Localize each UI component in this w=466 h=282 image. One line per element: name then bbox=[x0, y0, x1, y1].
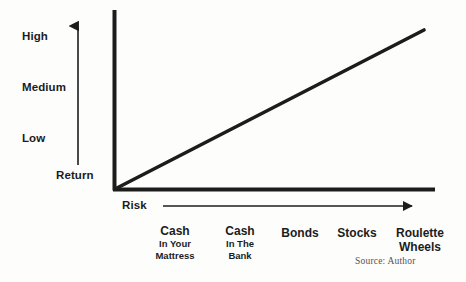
y-scale-label-high: High bbox=[22, 30, 48, 42]
y-axis-label: Return bbox=[56, 169, 94, 181]
category-main-text-2: Wheels bbox=[396, 240, 444, 254]
category-main-text: Cash bbox=[225, 224, 254, 238]
category-label-cash-bank: Cash In The Bank bbox=[225, 224, 254, 262]
category-label-bonds: Bonds bbox=[281, 226, 318, 240]
category-label-roulette-wheels: Roulette Wheels bbox=[396, 226, 444, 254]
category-sub-text-2: Bank bbox=[225, 250, 254, 262]
category-main-text: Stocks bbox=[337, 226, 376, 240]
category-main-text: Bonds bbox=[281, 226, 318, 240]
category-label-stocks: Stocks bbox=[337, 226, 376, 240]
x-axis-label: Risk bbox=[122, 199, 147, 211]
category-sub-text-1: In Your bbox=[155, 238, 194, 250]
source-attribution: Source: Author bbox=[355, 256, 416, 266]
category-main-text: Roulette bbox=[396, 226, 444, 240]
y-scale-label-low: Low bbox=[22, 132, 45, 144]
risk-return-chart: High Medium Low Return Risk Cash In Your… bbox=[0, 0, 466, 282]
risk-return-trend-line bbox=[115, 30, 424, 189]
category-sub-text-1: In The bbox=[225, 238, 254, 250]
category-label-cash-mattress: Cash In Your Mattress bbox=[155, 224, 194, 262]
y-scale-label-medium: Medium bbox=[22, 81, 66, 93]
category-sub-text-2: Mattress bbox=[155, 250, 194, 262]
category-main-text: Cash bbox=[155, 224, 194, 238]
